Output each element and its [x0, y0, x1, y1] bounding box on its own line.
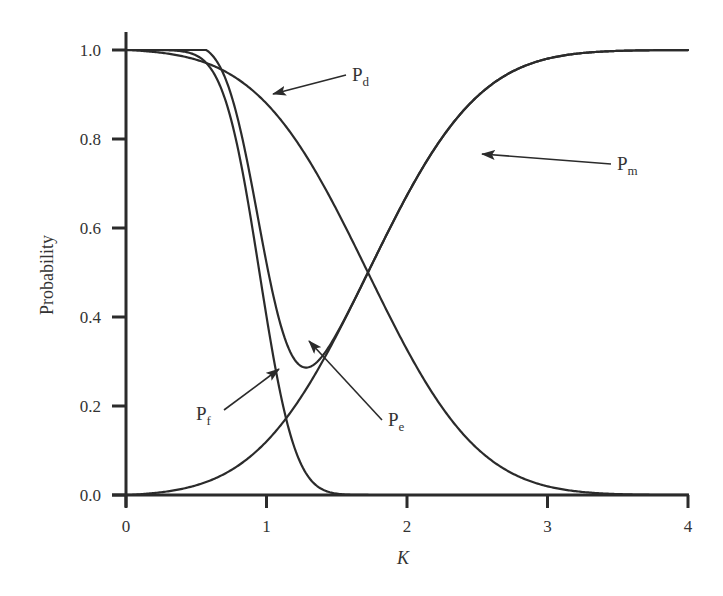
- arrow-pm-icon: [482, 154, 611, 164]
- curve-annotations: PdPmPfPe: [196, 64, 638, 434]
- curve-pm: [126, 50, 688, 495]
- x-tick-label: 0: [122, 517, 131, 536]
- x-axis-title: K: [396, 548, 410, 568]
- label-pd: Pd: [352, 64, 370, 89]
- curve-pf: [126, 50, 688, 495]
- x-tick-label: 4: [684, 517, 693, 536]
- curve-pd: [126, 50, 688, 495]
- x-axis-ticks: 01234: [122, 495, 693, 536]
- axes: [112, 32, 689, 507]
- arrow-pf-icon: [224, 369, 279, 410]
- y-tick-label: 0.6: [80, 219, 101, 238]
- y-tick-label: 0.8: [80, 130, 101, 149]
- x-tick-label: 3: [543, 517, 552, 536]
- y-tick-label: 0.0: [80, 486, 101, 505]
- y-axis-title: Probability: [37, 235, 57, 315]
- label-pm: Pm: [617, 153, 638, 178]
- y-tick-label: 0.4: [80, 308, 102, 327]
- y-axis-ticks: 0.00.20.40.60.81.0: [80, 41, 126, 505]
- arrow-pd-icon: [273, 75, 346, 94]
- arrow-pe-icon: [309, 341, 382, 420]
- x-tick-label: 1: [262, 517, 271, 536]
- plot-area: [126, 50, 688, 495]
- label-pe: Pe: [388, 409, 405, 434]
- label-pf: Pf: [196, 403, 212, 428]
- curve-pe: [126, 50, 688, 368]
- probability-vs-k-chart: 0.00.20.40.60.81.0 01234 K Probability P…: [0, 0, 723, 596]
- y-tick-label: 1.0: [80, 41, 101, 60]
- y-tick-label: 0.2: [80, 397, 101, 416]
- x-tick-label: 2: [403, 517, 412, 536]
